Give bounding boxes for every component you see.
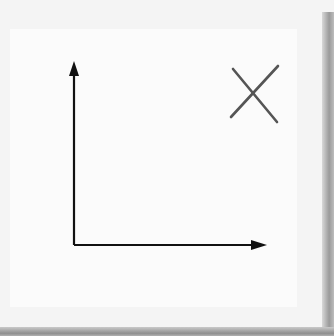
grid-paper (10, 29, 297, 307)
coordinate-plane (0, 0, 334, 336)
worksheet-card (0, 0, 334, 336)
